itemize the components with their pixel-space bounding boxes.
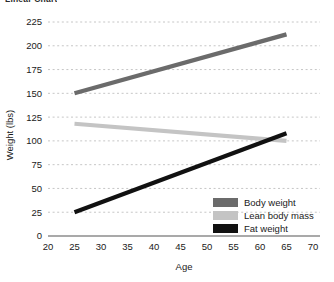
chart-canvas: 0255075100125150175200225 20253035404550…	[0, 0, 334, 282]
y-axis-title: Weight (lbs)	[4, 110, 15, 161]
series-line-body-weight	[75, 34, 287, 93]
legend-label: Fat weight	[244, 223, 288, 234]
y-axis-tick-label-group: 0255075100125150175200225	[26, 16, 42, 241]
x-axis-tick-label: 65	[281, 241, 292, 252]
legend-label: Lean body mass	[244, 210, 314, 221]
data-series-group	[75, 34, 287, 212]
chart-legend: Body weightLean body massFat weight	[213, 197, 314, 234]
y-axis-tick-label: 150	[26, 88, 42, 99]
y-axis-tick-label: 125	[26, 112, 42, 123]
y-axis-tick-label: 25	[31, 207, 42, 218]
y-axis-tick-label: 50	[31, 183, 42, 194]
x-axis-tick-label: 35	[122, 241, 133, 252]
x-axis-tick-label: 25	[69, 241, 80, 252]
x-axis-tick-label: 60	[255, 241, 266, 252]
x-axis-tick-label: 20	[43, 241, 54, 252]
legend-label: Body weight	[244, 197, 296, 208]
x-axis-tick-label: 45	[175, 241, 186, 252]
series-line-lean-body-mass	[75, 124, 287, 141]
gridline-group	[48, 22, 320, 212]
line-chart-figure: Linear Chart 0255075100125150175200225 2…	[0, 0, 334, 282]
y-axis-tick-label: 75	[31, 159, 42, 170]
y-axis-tick-label: 225	[26, 16, 42, 27]
y-axis-tick-label: 200	[26, 40, 42, 51]
y-axis-tick-label: 0	[37, 230, 42, 241]
legend-swatch	[213, 198, 238, 207]
legend-swatch	[213, 211, 238, 220]
x-axis-tick-label: 70	[308, 241, 319, 252]
x-axis-tick-label: 30	[96, 241, 107, 252]
x-axis-tick-label: 40	[149, 241, 160, 252]
legend-swatch	[213, 224, 238, 233]
y-axis-tick-label: 175	[26, 64, 42, 75]
x-axis-title: Age	[176, 261, 193, 272]
x-axis-tick-label-group: 2025303540455055606570	[43, 241, 319, 252]
x-axis-tick-label: 50	[202, 241, 213, 252]
x-axis-tick-label: 55	[228, 241, 239, 252]
y-axis-tick-label: 100	[26, 135, 42, 146]
